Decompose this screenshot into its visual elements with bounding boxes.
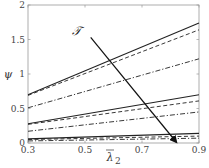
y-tick-label: 0.5 [11,104,26,114]
line-chart: 𝒯 0.30.50.70.900.511.52 ψ λ 2 [0,0,209,168]
x-axis-label-main: λ [106,151,114,164]
plot-frame [28,5,199,143]
y-axis-label: ψ [4,68,13,81]
x-tick-label: 0.7 [135,145,150,155]
x-tick-label: 0.5 [78,145,93,155]
x-axis-label-subscript: 2 [115,156,121,166]
y-tick-label: 1.5 [11,35,26,45]
y-tick-label: 0 [19,138,25,148]
x-tick-label: 0.9 [192,145,207,155]
y-tick-label: 2 [19,0,25,10]
x-axis-label: λ 2 [106,150,121,166]
y-tick-label: 1 [19,69,25,79]
